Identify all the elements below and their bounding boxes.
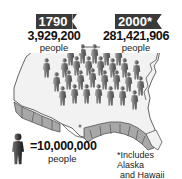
person-icon [10, 133, 26, 165]
footnote: *Includes Alaska and Hawaii [117, 150, 182, 179]
label-2000: 2000* 281,421,906 people [100, 12, 172, 53]
legend: =10,000,000 people [8, 133, 98, 173]
legend-unit: people [48, 153, 77, 164]
year-1790-text: 1790 [39, 14, 68, 29]
banner-notch [72, 14, 77, 29]
banner-notch [157, 14, 162, 29]
label-1790: 1790 3,929,200 people [27, 12, 81, 53]
legend-equals-value: =10,000,000 [30, 139, 97, 153]
footnote-line-1: *Includes Alaska [117, 150, 182, 170]
year-tag-1790: 1790 [36, 14, 73, 29]
year-2000-text: 2000* [118, 14, 152, 29]
population-infographic: 1790 3,929,200 people 2000* 281,421,906 … [0, 0, 182, 179]
footnote-line-2: and Hawaii [117, 170, 182, 179]
population-1790-unit: people [27, 43, 81, 53]
population-2000-unit: people [100, 43, 172, 53]
year-tag-2000: 2000* [115, 14, 157, 29]
